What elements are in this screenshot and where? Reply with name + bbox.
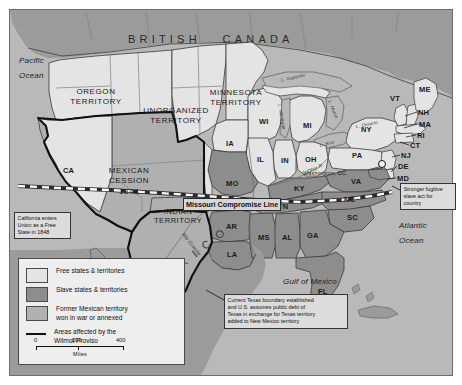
scale-bar-graphic	[34, 346, 132, 351]
legend-free-states-label: Free states & territories	[56, 267, 125, 276]
map-container: BRITISH CANADA M E X I C O Pacific Ocean…	[0, 0, 462, 385]
fugitive-callout-leader	[392, 186, 400, 190]
scale-tick-200: 200	[72, 337, 81, 343]
legend-slave-states: Slave states & territories	[26, 286, 127, 302]
scale-units: Miles	[34, 351, 126, 357]
scale-bar: 0 200 400 Miles	[34, 337, 132, 357]
legend-free-states-swatch	[26, 268, 48, 283]
texas-callout-leader	[206, 290, 224, 300]
legend-free-states: Free states & territories	[26, 267, 125, 283]
scale-tick-400: 400	[116, 337, 125, 343]
legend-slave-states-label: Slave states & territories	[56, 286, 127, 295]
scale-tick-0: 0	[34, 337, 37, 343]
legend-mexican-territory-swatch	[26, 306, 48, 321]
legend-mexican-territory: Former Mexican territory won in war or a…	[26, 305, 128, 322]
legend-slave-states-swatch	[26, 287, 48, 302]
legend-wilmot-proviso-line	[26, 333, 46, 335]
legend-mexican-territory-label: Former Mexican territory won in war or a…	[56, 305, 128, 322]
map-legend: Free states & territories Slave states &…	[18, 258, 185, 365]
